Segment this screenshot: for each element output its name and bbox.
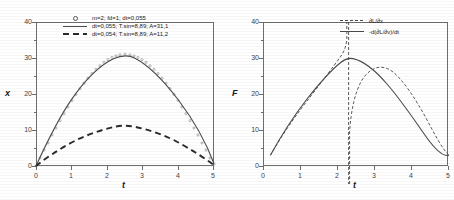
legend-right: ∂L/∂x -d(∂L/∂v)/dt	[339, 15, 399, 37]
legend-label: dt=0,055; T.sin=8,89; A=31,1	[92, 22, 168, 30]
series-dLdv-solid	[270, 58, 449, 155]
legend-row: m=2; fd=1; dt=0,055	[62, 14, 168, 22]
series-dLdx-right-branch	[350, 67, 449, 184]
legend-key-dashed-icon	[62, 30, 88, 38]
legend-label: ∂L/∂x	[369, 17, 383, 25]
legend-row: ∂L/∂x	[339, 15, 399, 26]
chart-panel-right: 40 30 20 10 0 F 0 1 2 3 4 5 t	[227, 0, 454, 200]
legend-label: dt=0,054; T.sin=8,89; A=11,2	[92, 30, 168, 38]
legend-key-solid-icon	[62, 22, 88, 30]
series-markers	[35, 53, 215, 167]
figure-container: 40 30 20 10 0 x 0 1 2 3 4 5 t	[0, 0, 454, 200]
legend-label: -d(∂L/∂v)/dt	[369, 28, 399, 36]
legend-row: dt=0,055; T.sin=8,89; A=31,1	[62, 22, 168, 30]
legend-key-marker-icon	[62, 14, 88, 22]
legend-key-solid-icon	[339, 28, 365, 36]
legend-key-dashed-icon	[339, 17, 365, 25]
legend-row: -d(∂L/∂v)/dt	[339, 26, 399, 37]
series-dashed-a11	[36, 126, 214, 166]
chart-panel-left: 40 30 20 10 0 x 0 1 2 3 4 5 t	[0, 0, 227, 200]
legend-row: dt=0,054; T.sin=8,89; A=11,2	[62, 30, 168, 38]
legend-left: m=2; fd=1; dt=0,055 dt=0,055; T.sin=8,89…	[62, 14, 168, 38]
series-solid-a31	[36, 56, 214, 166]
legend-label: m=2; fd=1; dt=0,055	[92, 14, 146, 22]
